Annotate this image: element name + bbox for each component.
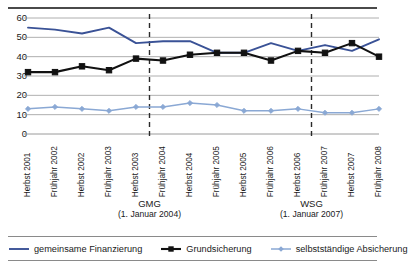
- plot-svg: [0, 12, 385, 140]
- data-point-marker: [79, 106, 84, 111]
- event-annotation: WSG(1. Januar 2007): [280, 198, 343, 219]
- data-point-marker: [160, 58, 165, 63]
- data-point-marker: [214, 102, 219, 107]
- chart-legend: gemeinsame FinanzierungGrundsicherungsel…: [8, 240, 377, 258]
- x-tick-label: Herbst 2005: [239, 152, 247, 197]
- x-tick-label: Herbst 2004: [185, 152, 193, 197]
- data-point-marker: [79, 64, 84, 69]
- data-point-marker: [25, 106, 30, 111]
- event-label: WSG: [280, 198, 343, 209]
- x-tick-label: Herbst 2006: [293, 152, 301, 197]
- data-point-marker: [241, 108, 246, 113]
- event-annotation: GMG(1. Januar 2004): [118, 198, 181, 219]
- data-point-marker: [241, 50, 246, 55]
- x-tick-label: Frühjahr 2002: [50, 146, 58, 197]
- data-point-marker: [133, 104, 138, 109]
- x-tick-label: Frühjahr 2005: [212, 146, 220, 197]
- x-tick-label: Herbst 2003: [131, 152, 139, 197]
- event-label: GMG: [118, 198, 181, 209]
- data-point-marker: [52, 69, 57, 74]
- legend-item-0[interactable]: gemeinsame Finanzierung: [8, 243, 142, 255]
- event-date: (1. Januar 2004): [118, 209, 181, 219]
- data-point-marker: [268, 108, 273, 113]
- data-point-marker: [268, 58, 273, 63]
- x-tick-label: Herbst 2002: [77, 152, 85, 197]
- legend-swatch-none-icon: [8, 243, 30, 255]
- data-point-marker: [106, 68, 111, 73]
- data-point-marker: [295, 48, 300, 53]
- legend-item-2[interactable]: selbstständige Absicherung: [270, 243, 408, 255]
- x-tick-label: Herbst 2001: [23, 152, 31, 197]
- legend-swatch-diamond-icon: [270, 243, 292, 255]
- x-tick-label: Herbst 2007: [347, 152, 355, 197]
- x-tick-label: Frühjahr 2003: [104, 146, 112, 197]
- legend-swatch-square-icon: [160, 243, 182, 255]
- event-annotations: GMG(1. Januar 2004)WSG(1. Januar 2007): [0, 198, 385, 230]
- top-divider-rule: [8, 7, 377, 9]
- data-point-marker: [376, 54, 381, 59]
- data-point-marker: [187, 100, 192, 105]
- x-tick-label: Frühjahr 2007: [320, 146, 328, 197]
- legend-label: Grundsicherung: [186, 244, 251, 254]
- series-line-0: [28, 28, 379, 53]
- data-point-marker: [133, 56, 138, 61]
- x-tick-label: Frühjahr 2006: [266, 146, 274, 197]
- x-tick-label: Frühjahr 2008: [374, 146, 382, 197]
- data-point-marker: [52, 104, 57, 109]
- data-point-marker: [322, 50, 327, 55]
- legend-item-1[interactable]: Grundsicherung: [160, 243, 251, 255]
- legend-label: gemeinsame Finanzierung: [34, 244, 142, 254]
- data-point-marker: [376, 106, 381, 111]
- data-point-marker: [214, 50, 219, 55]
- data-point-marker: [25, 69, 30, 74]
- legend-bottom-rule: [8, 260, 377, 261]
- x-tick-label: Frühjahr 2004: [158, 146, 166, 197]
- event-date: (1. Januar 2007): [280, 209, 343, 219]
- legend-label: selbstständige Absicherung: [296, 244, 408, 254]
- legend-top-rule: [8, 236, 377, 237]
- data-point-marker: [160, 104, 165, 109]
- plot-area: [0, 12, 385, 140]
- x-axis: Herbst 2001Frühjahr 2002Herbst 2002Frühj…: [0, 141, 385, 197]
- data-point-marker: [295, 106, 300, 111]
- data-point-marker: [349, 40, 354, 45]
- data-point-marker: [106, 108, 111, 113]
- data-point-marker: [187, 52, 192, 57]
